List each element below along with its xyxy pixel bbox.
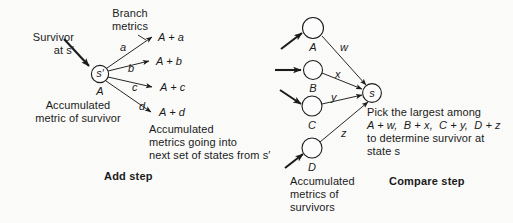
outgoing-metrics-caption-line1: Accumulated <box>149 123 214 136</box>
compare-node-label-d: D <box>302 161 322 173</box>
compare-branch-value-w: w <box>340 41 348 54</box>
compare-explanation-line2: A + w, B + x, C + y, D + z <box>367 119 501 132</box>
survivor-label-line1: Survivor <box>8 31 74 44</box>
compare-node-label-c: C <box>302 119 322 131</box>
branch-value-c: c <box>132 81 138 94</box>
branch-value-b: b <box>128 62 134 75</box>
branch-value-d: d <box>139 100 145 113</box>
add-step-title: Add step <box>104 170 153 183</box>
sum-label-a: A + a <box>158 31 184 44</box>
sum-label-d: A + d <box>159 106 185 119</box>
outgoing-metrics-caption-line3: next set of states from s′ <box>149 149 270 162</box>
compare-accumulated-caption-line2: metrics of <box>290 188 339 201</box>
compare-accumulated-caption-line1: Accumulated <box>290 175 355 188</box>
compare-accumulated-caption-line3: survivors <box>290 201 335 214</box>
survivor-label-line2: at s′ <box>8 44 74 57</box>
compare-branch-value-y: y <box>331 91 337 104</box>
sum-label-c: A + c <box>160 81 185 94</box>
add-step-accumulated-metric-symbol: A <box>91 85 109 97</box>
compare-branch-value-z: z <box>341 127 347 140</box>
compare-node-label-a: A <box>303 41 323 53</box>
add-step-state-node-label: s′ <box>90 67 110 79</box>
compare-explanation-line1: Pick the largest among <box>367 106 481 119</box>
accumulated-metric-caption-line1: Accumulated <box>18 99 138 112</box>
compare-explanation-line4: state s <box>367 145 400 158</box>
figure-canvas: Survivor at s′ Branch metrics s′ A a b c… <box>0 0 513 223</box>
branch-metrics-label-line2: metrics <box>100 20 160 33</box>
compare-explanation-line3: to determine survivor at <box>367 132 484 145</box>
compare-target-node-label: s <box>363 87 381 99</box>
compare-branch-value-x: x <box>335 68 341 81</box>
branch-value-a: a <box>120 41 126 54</box>
branch-metrics-label-line1: Branch <box>100 7 160 20</box>
compare-node-label-b: B <box>303 82 323 94</box>
accumulated-metric-caption-line2: metric of survivor <box>12 112 144 125</box>
compare-step-incoming-arrows <box>275 33 303 168</box>
compare-step-title: Compare step <box>389 175 465 188</box>
add-step-branch-metrics-leader <box>138 35 146 40</box>
sum-label-b: A + b <box>156 55 182 68</box>
outgoing-metrics-caption-line2: metrics going into <box>149 136 237 149</box>
